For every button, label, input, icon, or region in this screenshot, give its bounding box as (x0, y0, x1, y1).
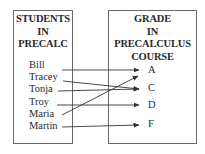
arrow-tracey-to-c (63, 81, 139, 89)
arrow-martin-to-f (62, 125, 139, 127)
arrow-tonja-to-c (58, 89, 139, 91)
mapping-arrows (0, 0, 205, 154)
